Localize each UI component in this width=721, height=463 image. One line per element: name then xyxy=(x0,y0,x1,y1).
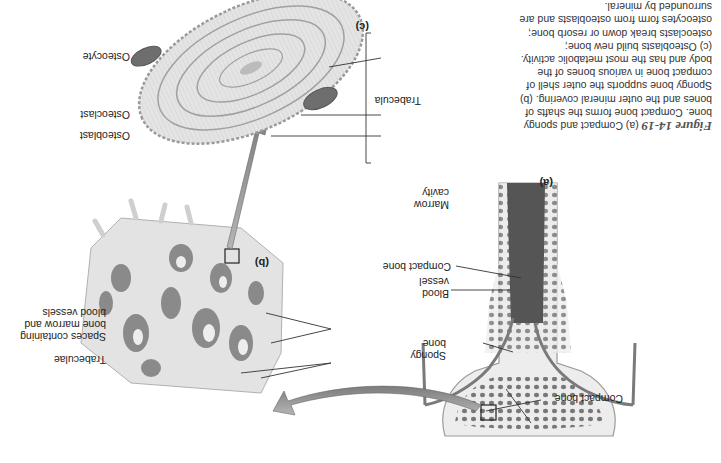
label-spaces: Spaces containing bone marrow and blood … xyxy=(20,307,106,343)
bone-figure: Figure 14-19 (a) Compact and spongy bone… xyxy=(0,0,721,463)
panel-c-letter: (c) xyxy=(356,21,369,33)
label-compact-bone-lower: Compact bone xyxy=(555,393,623,405)
label-compact-bone-upper: Compact bone xyxy=(383,261,451,273)
label-trabecula: Trabecula xyxy=(375,95,421,107)
label-osteoclast: Osteoclast xyxy=(80,109,130,121)
panel-a-letter: (a) xyxy=(540,177,553,189)
label-osteocyte: Osteocyte xyxy=(83,51,130,63)
label-blood-vessel: Blood vessel xyxy=(419,276,449,300)
spongy-bone-block xyxy=(81,201,283,393)
label-trabeculae: Trabeculae xyxy=(54,354,106,366)
label-osteoblast: Osteoblast xyxy=(80,130,130,142)
panel-b-letter: (b) xyxy=(255,257,269,269)
label-marrow-cavity: Marrow cavity xyxy=(414,187,449,211)
label-spongy-bone: Spongy bone xyxy=(410,338,446,362)
